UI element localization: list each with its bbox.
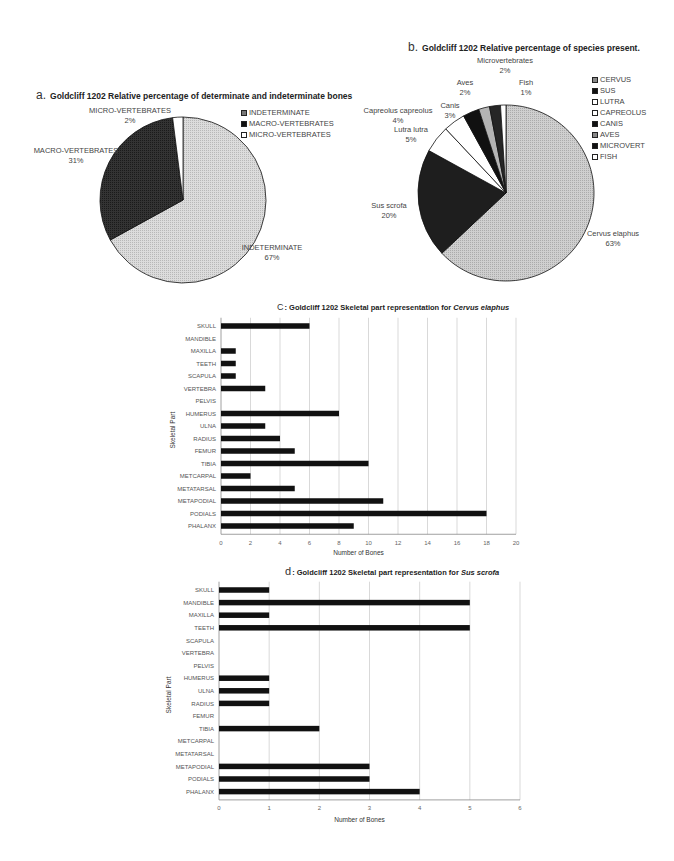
y-category-label: PHALANX xyxy=(186,789,214,795)
x-tick-label: 5 xyxy=(468,805,472,811)
x-axis-title: Number of Bones xyxy=(334,816,385,823)
bar-ulna xyxy=(219,688,269,694)
y-category-label: HUMERUS xyxy=(184,675,214,681)
bar-metapodial xyxy=(219,764,370,770)
x-tick-label: 3 xyxy=(368,805,372,811)
x-tick-label: 1 xyxy=(267,805,271,811)
y-category-label: METAPODIAL xyxy=(176,764,215,770)
y-category-label: SKULL xyxy=(195,587,215,593)
bar-teeth xyxy=(219,625,470,631)
bar-skull xyxy=(219,587,269,593)
y-category-label: PODIALS xyxy=(188,776,214,782)
y-category-label: METCARPAL xyxy=(178,738,215,744)
y-category-label: ULNA xyxy=(198,688,214,694)
y-category-label: TEETH xyxy=(194,625,214,631)
x-tick-label: 6 xyxy=(518,805,522,811)
bar-mandible xyxy=(219,600,470,606)
y-category-label: RADIUS xyxy=(191,701,214,707)
x-tick-label: 2 xyxy=(318,805,322,811)
y-category-label: VERTEBRA xyxy=(182,650,214,656)
y-category-label: PELVIS xyxy=(193,663,214,669)
y-category-label: TIBIA xyxy=(199,726,214,732)
y-category-label: MAXILLA xyxy=(189,612,214,618)
y-category-label: METATARSAL xyxy=(175,751,214,757)
bar-humerus xyxy=(219,675,269,681)
bar-radius xyxy=(219,701,269,707)
y-axis-title: Skeletal Part xyxy=(165,676,172,713)
x-tick-label: 0 xyxy=(217,805,221,811)
y-category-label: MANDIBLE xyxy=(183,600,214,606)
bar-chart-d: 0123456SKULLMANDIBLEMAXILLATEETHSCAPULAV… xyxy=(0,0,674,861)
y-category-label: FEMUR xyxy=(193,713,215,719)
bar-podials xyxy=(219,776,370,782)
bar-tibia xyxy=(219,726,319,732)
y-category-label: SCAPULA xyxy=(186,638,214,644)
bar-maxilla xyxy=(219,612,269,618)
x-tick-label: 4 xyxy=(418,805,422,811)
bar-phalanx xyxy=(219,789,420,795)
